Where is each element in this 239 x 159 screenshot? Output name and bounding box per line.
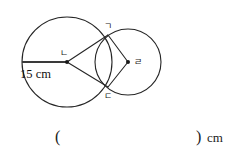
vertex-label-ra: ㄹ bbox=[134, 57, 142, 67]
vertex-label-da: ㄷ bbox=[104, 91, 112, 101]
vertex-label-na: ㄴ bbox=[60, 48, 68, 58]
answer-paren-open: ( bbox=[55, 129, 60, 145]
answer-input-blank[interactable] bbox=[68, 130, 186, 146]
dimension-label-15cm: 15 cm bbox=[20, 67, 51, 81]
geometry-figure-panel: ㄱ ㄴ ㄷ ㄹ 15 cm bbox=[0, 0, 239, 120]
vertex-label-ga: ㄱ bbox=[104, 21, 112, 31]
center-dot-ra bbox=[126, 60, 130, 64]
answer-paren-close: ) bbox=[196, 129, 201, 145]
geometry-diagram: ㄱ ㄴ ㄷ ㄹ 15 cm bbox=[0, 0, 239, 120]
segment-na-to-ga bbox=[67, 35, 108, 62]
segment-da-to-ra bbox=[108, 62, 128, 87]
segment-na-to-da bbox=[67, 62, 108, 87]
answer-blank-row: ( ) cm bbox=[0, 120, 239, 159]
segment-ga-to-ra bbox=[108, 35, 128, 62]
center-dot-na bbox=[65, 60, 69, 64]
answer-unit-label: cm bbox=[207, 131, 223, 144]
